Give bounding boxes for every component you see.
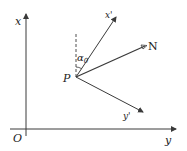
y-prime-label: y' [122,111,131,121]
x-axis-label: x [15,15,22,28]
angle-arc [76,67,82,69]
y-axis-label: y [164,134,172,147]
point-p-label: P [62,72,71,85]
diagram-canvas: x y O P x' y' N α0 [0,0,187,151]
angle-label: α0 [77,52,89,65]
y-prime-axis [76,77,143,112]
origin-label: O [13,132,22,145]
n-label: N [148,40,158,53]
x-prime-label: x' [105,10,113,20]
